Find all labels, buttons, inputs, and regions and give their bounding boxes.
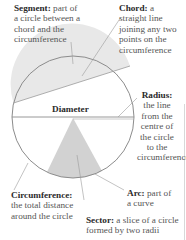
arc-leader [95,174,124,190]
arc-desc-2: a curve [127,198,171,208]
chord-term: Chord: [119,3,148,13]
segment-desc-4: circumference [14,34,80,44]
radius-desc-3: centre of [137,121,177,131]
chord-desc-2: straight line [119,13,177,23]
sector-label: Sector: a slice of a circle formed by tw… [86,215,179,236]
chord-desc-4: points on the [119,34,177,44]
segment-term: Segment: [14,3,51,13]
sector-shape [47,118,102,178]
chord-desc-5: circumference [119,45,177,55]
segment-label: Segment: part of a circle between a chor… [14,3,80,45]
sector-desc-2: formed by two radii [86,225,179,235]
chord-label: Chord: a straight line joining any two p… [119,3,177,55]
circumference-term: Circumference: [11,190,72,200]
circumference-label: Circumference: the total distance around… [11,190,73,221]
radius-desc-6: circumference [137,152,177,162]
arc-label: Arc: part of a curve [127,188,171,209]
sector-term: Sector: [86,215,114,225]
radius-desc-2: from the [137,111,177,121]
segment-desc-3: chord and the [14,24,80,34]
circumference-desc-2: around the circle [11,211,73,221]
diameter-label: Diameter [52,104,89,114]
sector-desc-1: a slice of a circle [116,215,178,225]
circumference-desc-1: the total distance [11,200,73,210]
segment-desc-2: a circle between a [14,13,80,23]
segment-desc-1: part of [53,3,77,13]
diameter-term: Diameter [52,104,89,114]
arc-term: Arc: [127,188,145,198]
page-edge-divider [184,104,185,240]
radius-label: Radius: the line from the centre of the … [137,90,177,163]
radius-desc-4: the circle [137,132,177,142]
circumference-leader [14,163,28,190]
radius-desc-5: to the [137,142,177,152]
radius-desc-1: the line [137,100,177,110]
chord-desc-1: a [150,3,154,13]
radius-term: Radius: [142,90,173,100]
chord-desc-3: joining any two [119,24,177,34]
arc-desc-1: part of [147,188,171,198]
